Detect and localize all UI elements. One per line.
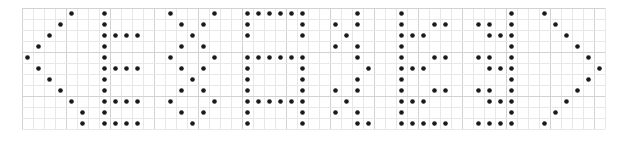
matrix-dot [168,99,173,104]
matrix-dot [300,66,305,71]
matrix-dot [498,33,503,38]
matrix-dot [245,11,250,16]
matrix-dot [124,99,129,104]
glyph-letter-m [399,11,448,126]
matrix-dot [80,110,85,115]
matrix-dot [300,77,305,82]
matrix-dot [300,121,305,126]
matrix-dot [300,33,305,38]
matrix-dot [102,22,107,27]
matrix-dot [124,121,129,126]
matrix-dot [102,88,107,93]
matrix-dot [69,11,74,16]
matrix-dot [201,44,206,49]
matrix-dot [300,110,305,115]
matrix-dot [36,44,41,49]
matrix-dot [509,121,514,126]
matrix-dot [245,55,250,60]
matrix-dot [399,11,404,16]
matrix-dot [487,22,492,27]
glyph-letter-l [476,11,514,126]
matrix-dot [586,55,591,60]
matrix-dot [179,44,184,49]
matrix-dot [36,66,41,71]
matrix-dot [80,121,85,126]
matrix-dot [487,99,492,104]
matrix-dot [333,22,338,27]
matrix-dot [498,99,503,104]
matrix-dot [498,121,503,126]
matrix-dot [256,11,261,16]
matrix-dot [245,66,250,71]
matrix-dot [366,66,371,71]
matrix-dot [179,88,184,93]
matrix-dot [201,66,206,71]
glyph-less-than-bracket [25,11,85,126]
matrix-dot [575,88,580,93]
matrix-dot [300,88,305,93]
matrix-dot [25,55,30,60]
matrix-dot [201,110,206,115]
matrix-dot [267,11,272,16]
matrix-dot [553,22,558,27]
matrix-dot [355,121,360,126]
matrix-dot [47,77,52,82]
matrix-dot [410,121,415,126]
matrix-dot [355,22,360,27]
matrix-dot [69,99,74,104]
matrix-dot [267,99,272,104]
matrix-dot [168,11,173,16]
matrix-dot [410,99,415,104]
matrix-dot [212,99,217,104]
matrix-dot [432,55,437,60]
matrix-dot [399,99,404,104]
matrix-dot [443,121,448,126]
matrix-dot [245,110,250,115]
matrix-dot [399,88,404,93]
matrix-dot [113,66,118,71]
matrix-dot [278,99,283,104]
matrix-dot [113,33,118,38]
matrix-dot [509,77,514,82]
matrix-dot [399,66,404,71]
matrix-dot [597,66,602,71]
matrix-dot [487,88,492,93]
matrix-dot [564,33,569,38]
matrix-dot [421,33,426,38]
matrix-dot [432,121,437,126]
matrix-dot [575,44,580,49]
matrix-dot [509,99,514,104]
matrix-dot [498,66,503,71]
matrix-dot [399,22,404,27]
matrix-dot [509,33,514,38]
glyph-letter-v [333,11,371,126]
matrix-dot [201,88,206,93]
matrix-dot [245,121,250,126]
matrix-dot [476,55,481,60]
glyph-letter-x [168,11,217,126]
matrix-dot [487,66,492,71]
matrix-dot [399,55,404,60]
matrix-dot [432,88,437,93]
matrix-dot [355,55,360,60]
matrix-dot [245,22,250,27]
glyph-greater-than-bracket [542,11,602,126]
matrix-dot [421,99,426,104]
matrix-dot [168,55,173,60]
matrix-dot [443,55,448,60]
matrix-dot [47,33,52,38]
matrix-dot [102,55,107,60]
matrix-dot [344,99,349,104]
matrix-dot [509,22,514,27]
matrix-dot [399,121,404,126]
matrix-dot [366,121,371,126]
glyph-letter-e [102,11,140,126]
matrix-dot [410,33,415,38]
matrix-dot [135,99,140,104]
matrix-dot [509,66,514,71]
matrix-dot [542,121,547,126]
matrix-dot [443,22,448,27]
matrix-dot [135,66,140,71]
matrix-dot [586,77,591,82]
matrix-dot [487,55,492,60]
